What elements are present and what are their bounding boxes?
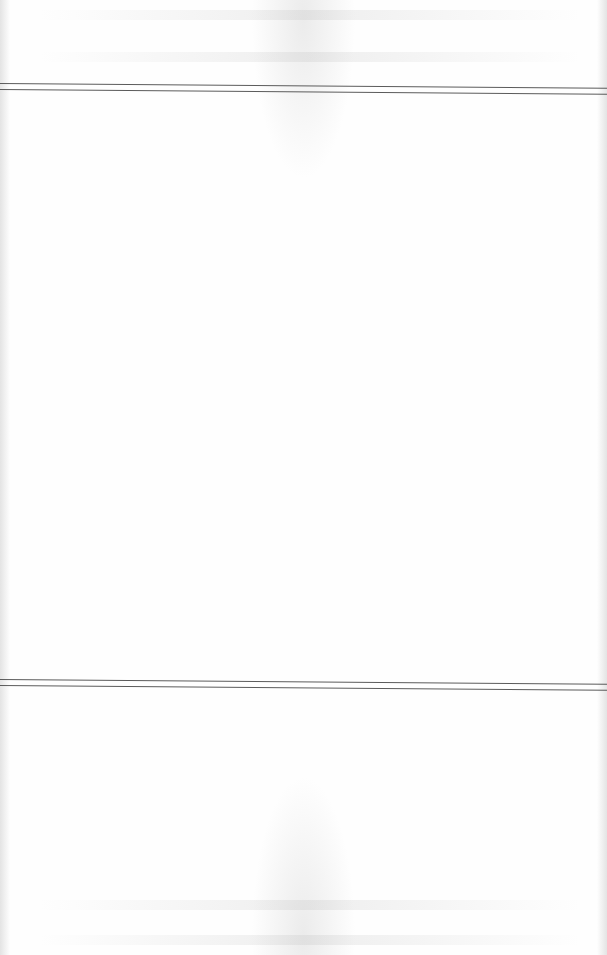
upper-double-rule: [0, 83, 607, 95]
rule-line: [0, 679, 607, 685]
page-body: [30, 110, 577, 660]
lower-double-rule: [0, 679, 607, 691]
document-page: [0, 0, 607, 955]
bleed-through-noise: [40, 900, 580, 910]
rule-line: [0, 83, 607, 89]
bleed-through-noise: [40, 10, 580, 20]
bleed-through-noise: [40, 935, 580, 945]
bleed-through-noise: [40, 52, 580, 62]
rule-line: [0, 685, 607, 691]
rule-line: [0, 89, 607, 95]
